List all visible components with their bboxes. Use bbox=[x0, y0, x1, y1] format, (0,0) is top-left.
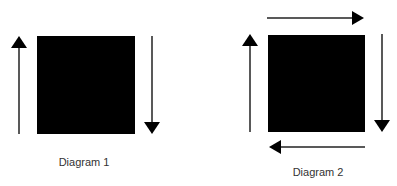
arrow-up-icon bbox=[11, 36, 27, 134]
arrow-up-icon bbox=[242, 34, 258, 132]
arrow-down-icon bbox=[374, 34, 390, 132]
square bbox=[37, 36, 135, 134]
diagram-2-label: Diagram 2 bbox=[293, 166, 344, 178]
diagram-1 bbox=[11, 36, 160, 134]
square bbox=[268, 35, 365, 132]
arrow-down-icon bbox=[144, 36, 160, 134]
arrow-right-icon bbox=[267, 11, 364, 25]
diagram-2 bbox=[242, 11, 390, 154]
diagram-1-label: Diagram 1 bbox=[59, 156, 110, 168]
arrow-left-icon bbox=[269, 140, 365, 154]
